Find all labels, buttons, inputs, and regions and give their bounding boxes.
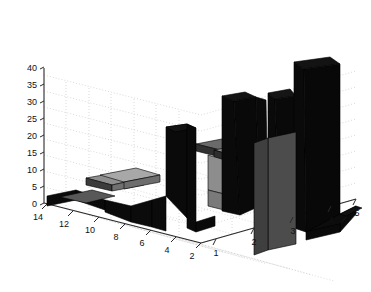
z-tick-40: 40 <box>27 63 37 73</box>
y-tick-12: 12 <box>59 219 69 229</box>
z-tick-15: 15 <box>27 148 37 158</box>
z-tick-0: 0 <box>32 199 37 209</box>
y-tick-2: 2 <box>189 251 194 261</box>
y-tick-6: 6 <box>139 238 144 248</box>
x-tick-4: 4 <box>328 215 333 225</box>
z-tick-10: 10 <box>27 165 37 175</box>
z-tick-30: 30 <box>27 97 37 107</box>
surface-plot-3d: 0 5 10 15 20 25 30 35 40 14 12 10 8 6 4 <box>0 0 371 292</box>
z-tick-20: 20 <box>27 131 37 141</box>
y-tick-4: 4 <box>164 245 169 255</box>
y-tick-14: 14 <box>33 212 43 222</box>
z-tick-25: 25 <box>27 114 37 124</box>
x-tick-1: 1 <box>213 248 218 258</box>
z-tick-5: 5 <box>32 182 37 192</box>
y-tick-10: 10 <box>85 225 95 235</box>
x-tick-2: 2 <box>251 237 256 247</box>
z-tick-35: 35 <box>27 80 37 90</box>
x-tick-5: 5 <box>354 208 359 218</box>
x-tick-3: 3 <box>290 226 295 236</box>
figure-canvas: 0 5 10 15 20 25 30 35 40 14 12 10 8 6 4 <box>0 0 371 292</box>
y-tick-8: 8 <box>113 232 118 242</box>
